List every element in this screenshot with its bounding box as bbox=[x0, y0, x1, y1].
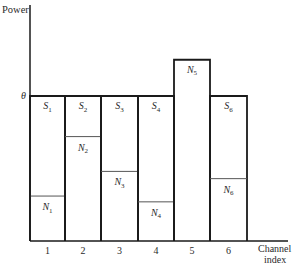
noise-power-label: N5 bbox=[186, 64, 198, 78]
x-axis-label-line1: Channel bbox=[258, 243, 292, 254]
signal-power-label: S6 bbox=[224, 100, 233, 114]
x-tick-label: 3 bbox=[117, 245, 122, 256]
noise-power-label: N2 bbox=[77, 142, 89, 156]
x-tick-labels: 123456 bbox=[45, 245, 231, 256]
bar-outline bbox=[101, 96, 138, 241]
x-tick-label: 4 bbox=[154, 245, 159, 256]
x-tick-label: 1 bbox=[45, 245, 50, 256]
signal-power-label: S3 bbox=[115, 100, 124, 114]
water-level-label: θ bbox=[21, 90, 26, 101]
water-filling-chart: S1N1S2N2S3N3S4N4N5S6N6 Power θ Channel i… bbox=[0, 0, 301, 270]
x-axis-label-line2: index bbox=[264, 254, 286, 265]
x-tick-label: 6 bbox=[226, 245, 231, 256]
bar-outline bbox=[65, 96, 101, 241]
noise-power-label: N1 bbox=[41, 201, 53, 215]
channel-bar-3: S3N3 bbox=[101, 96, 138, 241]
noise-power-label: N4 bbox=[150, 207, 162, 221]
signal-power-label: S1 bbox=[43, 100, 52, 114]
x-tick-label: 2 bbox=[81, 245, 86, 256]
bar-outline bbox=[174, 60, 210, 241]
signal-power-label: S2 bbox=[79, 100, 88, 114]
channel-bars: S1N1S2N2S3N3S4N4N5S6N6 bbox=[30, 60, 247, 241]
channel-bar-5: N5 bbox=[174, 60, 210, 241]
channel-bar-1: S1N1 bbox=[30, 96, 65, 241]
noise-power-label: N3 bbox=[113, 176, 125, 190]
bar-outline bbox=[30, 96, 65, 241]
noise-power-label: N6 bbox=[222, 184, 234, 198]
signal-power-label: S4 bbox=[152, 100, 161, 114]
channel-bar-2: S2N2 bbox=[65, 96, 101, 241]
channel-bar-4: S4N4 bbox=[138, 96, 174, 241]
channel-bar-6: S6N6 bbox=[210, 96, 247, 241]
bar-outline bbox=[138, 96, 174, 241]
y-axis-label: Power bbox=[2, 4, 29, 15]
x-tick-label: 5 bbox=[190, 245, 195, 256]
bar-outline bbox=[210, 96, 247, 241]
